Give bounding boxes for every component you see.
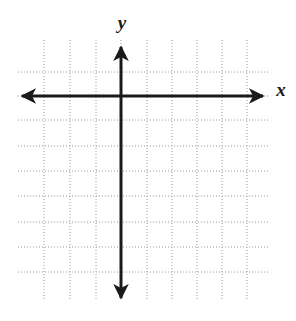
y-axis-label: y: [113, 13, 131, 32]
x-axis-label: x: [272, 80, 290, 99]
coordinate-plane-figure: y x: [0, 0, 296, 321]
grid-vertical-lines: [44, 40, 247, 300]
plot-canvas: [0, 0, 296, 321]
grid-horizontal-lines: [18, 72, 268, 272]
